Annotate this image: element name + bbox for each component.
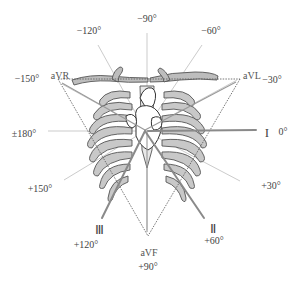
label-lead-i: I: [265, 126, 269, 139]
label-zero: 0°: [279, 127, 288, 137]
label-plus-60: +60°: [204, 236, 224, 246]
label-lead-iii: Ⅲ: [95, 223, 104, 236]
label-minus-150: −150°: [15, 74, 40, 84]
label-minus-30: −30°: [262, 75, 282, 85]
label-minus-90: −90°: [137, 14, 157, 24]
label-lead-ii: Ⅱ: [210, 222, 216, 235]
label-minus-60: −60°: [201, 26, 221, 36]
label-plus-150: +150°: [28, 184, 53, 194]
label-avl: aVL: [243, 71, 261, 81]
left-atrium: [126, 114, 137, 128]
label-plus-120: +120°: [74, 240, 99, 250]
hexaxial-diagram: [0, 0, 290, 284]
label-avf: aVF: [140, 248, 157, 258]
label-plus-30: +30°: [261, 181, 281, 191]
lead-i-line: [148, 130, 256, 131]
right-ribs: [162, 91, 207, 202]
label-plus-90: +90°: [138, 262, 158, 272]
label-avr: aVR: [51, 71, 69, 81]
label-minus-120: −120°: [77, 26, 102, 36]
left-clavicle: [72, 76, 148, 86]
left-ribs: [88, 91, 133, 202]
label-pm180: ±180°: [12, 129, 37, 139]
